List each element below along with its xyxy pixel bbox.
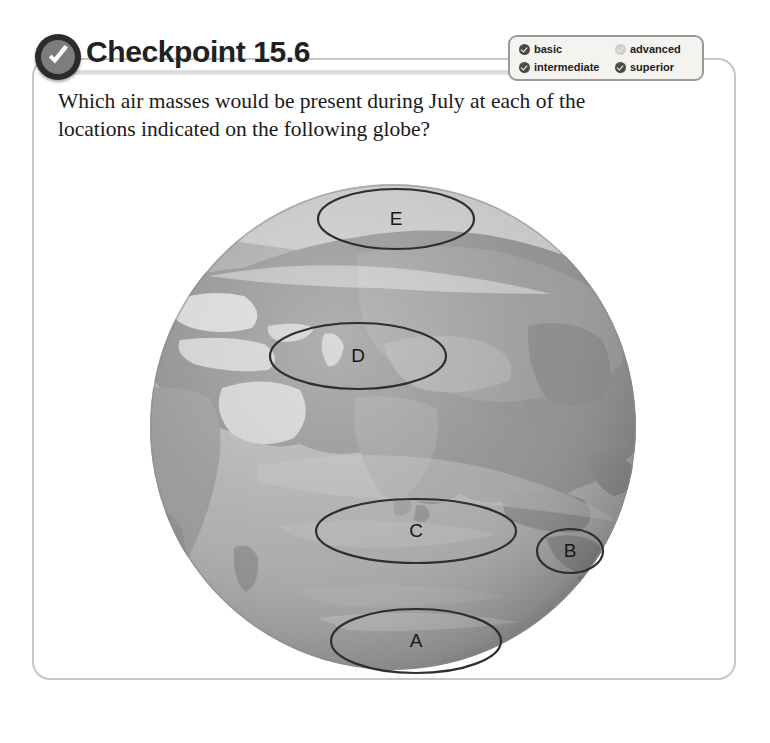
legend-label-intermediate: intermediate — [534, 62, 599, 73]
globe-image: E D C B A — [148, 176, 638, 678]
check-glyph — [41, 40, 75, 74]
legend-label-advanced: advanced — [630, 44, 681, 55]
check-icon-intermediate — [519, 62, 530, 73]
region-label-D: D — [351, 345, 365, 366]
globe-surface — [148, 176, 638, 670]
globe-figure: E D C B A — [148, 176, 638, 678]
difficulty-legend: basic advanced intermediate superior — [508, 35, 704, 81]
region-label-C: C — [409, 520, 423, 541]
check-circle-icon — [35, 34, 81, 80]
legend-item-superior[interactable]: superior — [615, 58, 694, 76]
region-label-B: B — [564, 540, 577, 561]
legend-item-intermediate[interactable]: intermediate — [519, 58, 615, 76]
region-label-E: E — [390, 208, 403, 229]
check-icon-superior — [615, 62, 626, 73]
legend-label-basic: basic — [534, 44, 562, 55]
legend-label-superior: superior — [630, 62, 674, 73]
legend-item-basic[interactable]: basic — [519, 40, 615, 58]
check-icon-basic — [519, 44, 530, 55]
region-label-A: A — [410, 630, 423, 651]
page-title: Checkpoint 15.6 — [86, 35, 310, 69]
check-icon-advanced — [615, 44, 626, 55]
question-text: Which air masses would be present during… — [58, 87, 658, 143]
legend-item-advanced[interactable]: advanced — [615, 40, 694, 58]
